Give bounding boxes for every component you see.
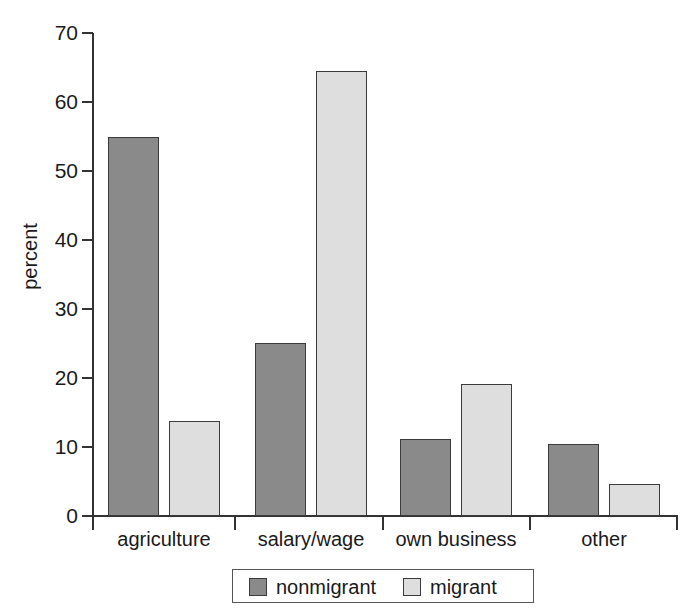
x-axis-label-other: other <box>494 528 688 551</box>
y-axis-tick-label-text: 60 <box>32 91 78 112</box>
y-axis-tick-label-text: 70 <box>32 22 78 43</box>
y-axis-title: percent <box>19 212 42 302</box>
legend-entry-migrant: migrant <box>403 576 497 598</box>
bar-nonmigrant-salary-wage <box>255 343 306 516</box>
y-axis-tick-label: 10 <box>22 436 78 457</box>
y-axis-tick-label: 20 <box>22 367 78 388</box>
y-axis-tick-label: 30 <box>22 298 78 319</box>
y-axis-tick-label-text: 10 <box>32 436 78 457</box>
legend-entry-nonmigrant: nonmigrant <box>249 576 376 598</box>
bar-migrant-other <box>609 484 660 516</box>
bar-migrant-agriculture <box>169 421 220 516</box>
y-axis-tick <box>82 170 93 172</box>
legend: nonmigrant migrant <box>232 569 534 603</box>
bar-migrant-own-business <box>461 384 512 516</box>
y-axis-tick <box>82 308 93 310</box>
y-axis-line <box>92 33 94 517</box>
bar-nonmigrant-other <box>548 444 599 516</box>
y-axis-tick <box>82 32 93 34</box>
legend-swatch-nonmigrant <box>249 578 267 596</box>
y-axis-tick <box>82 239 93 241</box>
y-axis-tick-label-text: 20 <box>32 367 78 388</box>
y-axis-tick <box>82 446 93 448</box>
bar-nonmigrant-agriculture <box>108 137 159 517</box>
y-axis-tick-label-text: 30 <box>32 298 78 319</box>
y-axis-tick-label: 50 <box>22 160 78 181</box>
y-axis-tick-label: 60 <box>22 91 78 112</box>
legend-swatch-migrant <box>403 578 421 596</box>
bar-migrant-salary-wage <box>316 71 367 516</box>
bar-chart: percent 010203040506070 agriculturesalar… <box>0 0 688 614</box>
y-axis-tick <box>82 377 93 379</box>
legend-label-migrant: migrant <box>430 577 497 597</box>
bar-nonmigrant-own-business <box>400 439 451 516</box>
y-axis-tick-label: 70 <box>22 22 78 43</box>
y-axis-tick-label-text: 40 <box>32 229 78 250</box>
y-axis-tick-label: 40 <box>22 229 78 250</box>
y-axis-tick <box>82 101 93 103</box>
y-axis-tick-label: 0 <box>22 505 78 526</box>
y-axis-tick-label-text: 50 <box>32 160 78 181</box>
y-axis-tick-label-text: 0 <box>32 505 78 526</box>
legend-label-nonmigrant: nonmigrant <box>276 577 376 597</box>
